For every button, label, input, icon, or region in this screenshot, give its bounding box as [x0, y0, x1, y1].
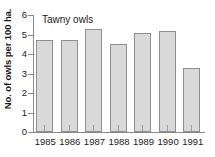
bar — [85, 29, 102, 132]
y-axis-tick-label: 3 — [16, 68, 27, 79]
bar — [183, 68, 200, 132]
chart-title: Tawny owls — [42, 14, 93, 26]
x-axis-minor-tick — [167, 125, 168, 132]
x-axis-tick-label: 1986 — [58, 136, 83, 148]
x-axis-tick-label: 1988 — [107, 136, 132, 148]
x-axis-tick-labels: 1985198619871988198919901991 — [33, 136, 205, 150]
y-axis-tick-label: 0 — [16, 126, 27, 137]
x-axis-minor-tick — [93, 125, 94, 132]
x-axis-minor-tick — [118, 125, 119, 132]
bar-slot — [58, 15, 83, 132]
bar — [36, 40, 53, 132]
y-axis-tick-label: 4 — [16, 48, 27, 59]
y-axis-tick-label: 5 — [16, 29, 27, 40]
x-axis-line — [33, 132, 205, 133]
bar-series — [33, 15, 205, 132]
x-axis-tick-label: 1991 — [180, 136, 205, 148]
x-axis-tick-label: 1985 — [33, 136, 58, 148]
bar-chart: No. of owls per 100 ha. 0123456 19851986… — [0, 0, 215, 157]
bar-slot — [131, 15, 156, 132]
x-axis-minor-tick — [191, 125, 192, 132]
y-axis-tick — [28, 132, 33, 133]
y-axis-tick-label: 1 — [16, 107, 27, 118]
bar-slot — [107, 15, 132, 132]
bar-slot — [33, 15, 58, 132]
bar-slot — [180, 15, 205, 132]
x-axis-tick-label: 1990 — [156, 136, 181, 148]
bar — [134, 33, 151, 132]
x-axis-tick-label: 1987 — [82, 136, 107, 148]
x-axis-minor-tick — [142, 125, 143, 132]
y-axis-title: No. of owls per 100 ha. — [1, 0, 15, 121]
bar — [61, 40, 78, 132]
bar — [110, 44, 127, 132]
x-axis-tick-label: 1989 — [131, 136, 156, 148]
bar — [159, 31, 176, 132]
bar-slot — [82, 15, 107, 132]
x-axis-minor-tick — [69, 125, 70, 132]
x-axis-minor-tick — [44, 125, 45, 132]
y-axis-tick-label: 2 — [16, 87, 27, 98]
bar-slot — [156, 15, 181, 132]
y-axis-tick-label: 6 — [16, 9, 27, 20]
